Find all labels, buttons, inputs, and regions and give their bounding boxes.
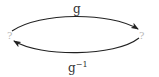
edge-g-arrow <box>12 16 138 31</box>
edge-label-g-inverse-exponent: −1 <box>76 60 88 69</box>
node-right-label: ? <box>139 30 144 41</box>
edge-g-inverse-arrow <box>14 38 139 53</box>
diagram-canvas: g g−1 ? ? <box>0 0 159 77</box>
node-left-label: ? <box>7 30 12 41</box>
edge-label-g: g <box>73 2 81 16</box>
edge-label-g-inverse: g−1 <box>68 60 87 75</box>
